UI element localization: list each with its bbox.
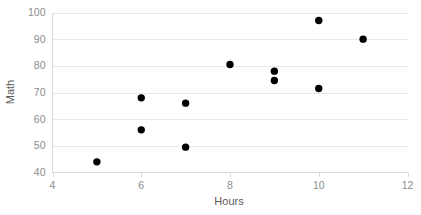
y-tick-label-50: 50 [34,139,46,151]
scatter-chart: 405060708090100 4681012 Hours Math [0,0,421,215]
x-tick-label-10: 10 [313,179,325,191]
data-point [182,99,189,106]
y-tick-label-40: 40 [34,166,46,178]
x-tick-label-4: 4 [50,179,56,191]
y-tick-label-80: 80 [34,59,46,71]
data-point [182,143,189,150]
data-point [315,17,322,24]
y-tick-label-100: 100 [28,6,46,18]
data-point [138,94,145,101]
data-point [359,35,366,42]
y-tick-label-70: 70 [34,86,46,98]
y-tick-label-60: 60 [34,113,46,125]
data-point [226,61,233,68]
plot-background [0,0,421,215]
x-tick-label-8: 8 [227,179,233,191]
y-axis-title: Math [4,80,16,104]
data-point [271,77,278,84]
x-tick-label-6: 6 [138,179,144,191]
data-point [138,126,145,133]
x-tick-label-12: 12 [402,179,414,191]
data-point [315,85,322,92]
chart-canvas: 405060708090100 4681012 Hours Math [0,0,421,215]
data-point [93,158,100,165]
data-point [271,67,278,74]
y-tick-label-90: 90 [34,33,46,45]
x-axis-title: Hours [214,195,244,207]
